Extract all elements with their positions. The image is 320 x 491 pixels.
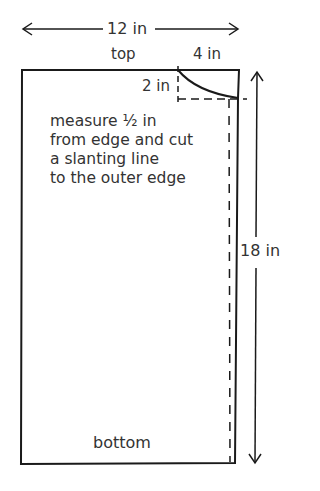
- height-arrow-icon: [249, 72, 263, 463]
- corner-curve-cut: [178, 70, 238, 98]
- instruction-line: a slanting line: [50, 150, 193, 169]
- height-label: 18 in: [240, 242, 280, 259]
- bottom-edge-label: bottom: [93, 434, 151, 451]
- corner-vertical-label: 2 in: [142, 78, 170, 95]
- instruction-line: measure ½ in: [50, 112, 193, 131]
- width-label: 12 in: [105, 20, 149, 37]
- corner-horizontal-label: 4 in: [193, 46, 221, 63]
- seam-allowance-guide: [229, 99, 230, 462]
- cutting-instruction: measure ½ in from edge and cut a slantin…: [50, 112, 193, 188]
- instruction-line: to the outer edge: [50, 169, 193, 188]
- top-edge-label: top: [111, 46, 136, 63]
- instruction-line: from edge and cut: [50, 131, 193, 150]
